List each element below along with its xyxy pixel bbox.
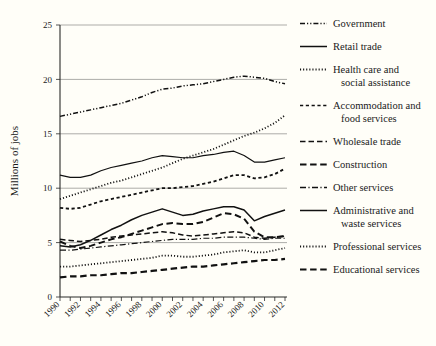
y-tick-label: 5 xyxy=(48,238,53,248)
y-axis-title-text: Millions of jobs xyxy=(8,126,20,196)
legend-label: Other services xyxy=(333,182,393,193)
chart-figure: 0510152025 19901992199419961998200020022… xyxy=(0,0,436,346)
y-tick-label: 10 xyxy=(43,183,53,193)
legend-label-line2: food services xyxy=(341,113,397,124)
y-axis-title: Millions of jobs xyxy=(8,126,20,196)
legend-label: Construction xyxy=(333,159,388,170)
y-tick-label: 20 xyxy=(43,75,53,85)
legend-label-line2: waste services xyxy=(341,218,401,229)
legend-label: Professional services xyxy=(333,241,421,252)
y-tick-label: 15 xyxy=(43,129,53,139)
legend-label: Retail trade xyxy=(333,41,382,52)
legend-label: Educational services xyxy=(333,264,420,275)
legend-label: Health care and xyxy=(333,64,400,75)
legend-label: Government xyxy=(333,18,386,29)
legend-label: Wholesale trade xyxy=(333,136,401,147)
jobs-by-industry-line-chart: 0510152025 19901992199419961998200020022… xyxy=(0,0,436,346)
legend-label-line2: social assistance xyxy=(341,77,410,88)
y-tick-label: 25 xyxy=(43,20,53,30)
legend-label: Administrative and xyxy=(333,205,415,216)
legend-label: Accommodation and xyxy=(333,100,422,111)
